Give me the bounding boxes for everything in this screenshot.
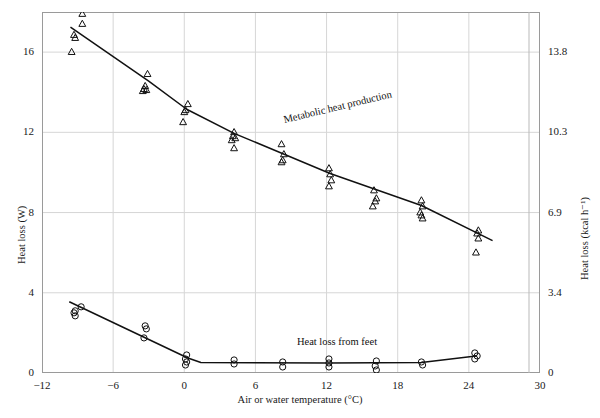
y-tick-label-right: 6.9 bbox=[548, 206, 562, 218]
x-tick-label: 12 bbox=[307, 379, 347, 391]
x-tick-label: −12 bbox=[22, 379, 62, 391]
plot-area bbox=[42, 12, 540, 373]
figure-container: −12−60612182430048121603.46.910.313.8 He… bbox=[0, 0, 600, 418]
series-fit-line bbox=[69, 302, 476, 363]
data-point-triangle bbox=[473, 249, 480, 255]
series-heat-loss-from-feet bbox=[69, 302, 480, 373]
plot-frame bbox=[43, 13, 540, 373]
x-tick-label: 18 bbox=[378, 379, 418, 391]
data-point-triangle bbox=[79, 20, 86, 26]
y-tick-label-right: 0 bbox=[548, 366, 554, 378]
y-axis-label-left: Heat loss (W) bbox=[16, 206, 27, 264]
x-axis-label: Air or water temperature (°C) bbox=[0, 394, 600, 405]
x-tick-label: −6 bbox=[93, 379, 133, 391]
data-point-triangle bbox=[180, 119, 187, 125]
series-metabolic-heat-production bbox=[68, 12, 492, 255]
y-tick-label-right: 10.3 bbox=[548, 125, 567, 137]
x-tick-label: 24 bbox=[449, 379, 489, 391]
y-tick-label-left: 12 bbox=[6, 125, 34, 137]
y-tick-label-left: 4 bbox=[6, 286, 34, 298]
x-tick-label: 0 bbox=[164, 379, 204, 391]
data-point-triangle bbox=[418, 197, 425, 203]
data-point-triangle bbox=[144, 70, 151, 76]
y-tick-label-right: 13.8 bbox=[548, 45, 567, 57]
y-tick-label-right: 3.4 bbox=[548, 286, 562, 298]
chart-annotation: Heat loss from feet bbox=[297, 336, 377, 347]
y-axis-label-right: Heat loss (kcal h⁻¹) bbox=[578, 197, 590, 280]
chart-canvas bbox=[42, 12, 540, 373]
data-point-triangle bbox=[279, 157, 286, 163]
data-point-triangle bbox=[68, 48, 75, 54]
x-tick-label: 30 bbox=[520, 379, 560, 391]
y-tick-label-left: 16 bbox=[6, 45, 34, 57]
data-point-triangle bbox=[278, 141, 285, 147]
series-fit-line bbox=[70, 27, 492, 241]
data-point-circle bbox=[231, 361, 237, 367]
x-tick-label: 6 bbox=[235, 379, 275, 391]
data-point-triangle bbox=[231, 145, 238, 151]
y-tick-label-left: 0 bbox=[6, 366, 34, 378]
